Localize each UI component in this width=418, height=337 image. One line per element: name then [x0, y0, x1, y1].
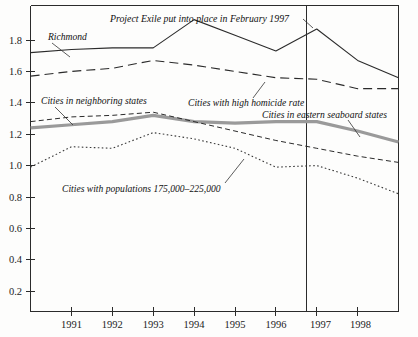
y-tick-label: 0.4 — [9, 254, 23, 265]
x-tick-label: 1993 — [143, 319, 164, 330]
x-tick-label: 1995 — [225, 319, 246, 330]
y-tick-label: 1.8 — [9, 35, 22, 46]
y-tick-label: 1.2 — [9, 129, 22, 140]
y-tick-label: 1.6 — [9, 66, 22, 77]
annotation-richmond-label: Richmond — [47, 31, 87, 42]
leader-high-homicide — [253, 82, 265, 98]
x-tick-label: 1998 — [350, 319, 371, 330]
x-axis: 1991 1992 1993 1994 1995 1996 1997 1998 — [61, 307, 371, 330]
y-tick-label: 0.6 — [9, 223, 22, 234]
x-tick-label: 1997 — [310, 319, 331, 330]
leader-populations — [225, 159, 244, 183]
leader-neighboring — [55, 107, 73, 125]
series-line-richmond — [31, 20, 399, 78]
y-tick-label: 1.4 — [9, 97, 23, 108]
annotation-high-homicide-label: Cities with high homicide rate — [188, 97, 305, 108]
x-tick-label: 1996 — [265, 319, 286, 330]
series-line-high-homicide — [31, 60, 399, 88]
y-tick-label: 0.8 — [9, 192, 22, 203]
x-tick-label: 1991 — [61, 319, 82, 330]
annotation-eastern-seaboard-label: Cities in eastern seaboard states — [262, 109, 387, 120]
chart-figure: 1.8 1.6 1.4 1.2 1.0 0.8 0.6 0.4 0.2 1991… — [0, 0, 418, 337]
leader-project-exile — [303, 19, 313, 28]
line-chart: 1.8 1.6 1.4 1.2 1.0 0.8 0.6 0.4 0.2 1991… — [0, 0, 418, 337]
y-tick-label: 0.2 — [9, 286, 22, 297]
plot-frame — [31, 6, 399, 312]
x-tick-label: 1994 — [184, 319, 206, 330]
annotation-project-exile-label: Project Exile put into place in February… — [109, 13, 290, 24]
y-tick-label: 1.0 — [9, 160, 22, 171]
annotation-neighboring-label: Cities in neighboring states — [41, 95, 147, 106]
x-tick-label: 1992 — [102, 319, 123, 330]
annotation-populations-label: Cities with populations 175,000–225,000 — [62, 183, 221, 194]
